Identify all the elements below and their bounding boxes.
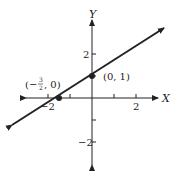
point-y-intercept (89, 73, 95, 79)
tick-label-x-neg2: −2 (40, 101, 55, 112)
svg-text:, 0): , 0) (44, 79, 61, 90)
point-label-y-intercept: (0, 1) (103, 71, 130, 82)
svg-text:2: 2 (39, 84, 43, 91)
y-axis-label: Y (89, 8, 98, 21)
chart: X Y −2 2 2 −2 (0, 1) (− 3 2 , 0) (0, 0, 179, 178)
tick-label-y-pos2: 2 (83, 49, 89, 60)
x-axis-label: X (161, 92, 171, 105)
tick-label-x-pos2: 2 (133, 101, 139, 112)
svg-text:3: 3 (39, 76, 43, 83)
tick-label-y-neg2: −2 (78, 137, 93, 148)
plotted-line (12, 28, 164, 125)
point-x-intercept (56, 95, 62, 101)
svg-text:(−: (− (25, 79, 37, 90)
point-label-x-intercept: (− 3 2 , 0) (25, 76, 61, 91)
